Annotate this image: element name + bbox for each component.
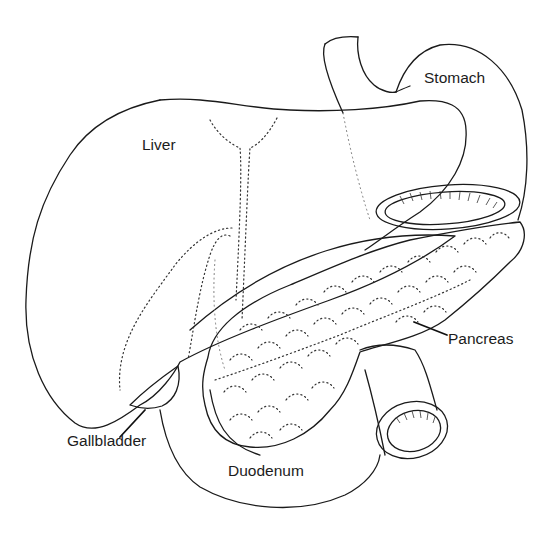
hepatic-duct-right	[242, 118, 277, 320]
jejunum-top	[360, 345, 437, 410]
stomach-cut-inner	[384, 188, 506, 228]
gallbladder-tip	[130, 366, 179, 408]
duodenum-inner	[210, 390, 260, 455]
jejunum-opening	[370, 394, 454, 467]
duodenum-outline	[160, 410, 380, 507]
label-stomach: Stomach	[424, 70, 485, 86]
label-pancreas: Pancreas	[448, 331, 513, 347]
stomach-hidden-edge	[343, 113, 370, 220]
label-duodenum: Duodenum	[228, 463, 304, 479]
gallbladder-neck-light	[214, 260, 225, 370]
label-liver: Liver	[142, 137, 176, 153]
esophagus-outline	[324, 44, 343, 113]
hepatic-duct-left	[210, 120, 241, 300]
esophagus-cap	[325, 37, 358, 44]
label-gallbladder: Gallbladder	[67, 433, 146, 449]
stomach-lesser-curve	[358, 37, 396, 92]
anatomy-diagram: Liver Stomach Pancreas Gallbladder Duode…	[0, 0, 554, 534]
liver-top-edge	[160, 99, 466, 250]
stomach-cut-section	[375, 180, 522, 234]
jejunum-bottom	[365, 370, 385, 455]
